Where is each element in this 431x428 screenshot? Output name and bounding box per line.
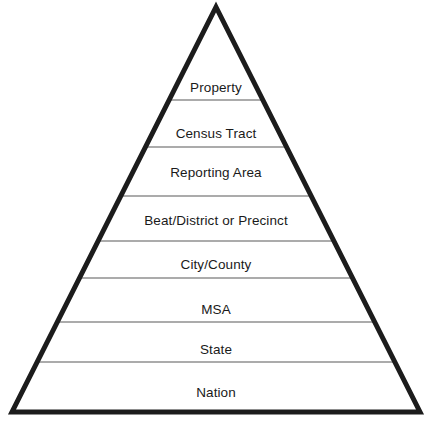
tier-label: Reporting Area — [170, 165, 262, 180]
tier-label: State — [200, 342, 232, 357]
pyramid-svg-canvas: PropertyCensus TractReporting AreaBeat/D… — [0, 0, 431, 428]
pyramid-diagram: PropertyCensus TractReporting AreaBeat/D… — [0, 0, 431, 428]
tier-label: Property — [190, 80, 242, 95]
tier-label: Nation — [196, 385, 236, 400]
tier-label: City/County — [181, 257, 252, 272]
tier-label: Census Tract — [176, 126, 257, 141]
tier-label: Beat/District or Precinct — [144, 213, 288, 228]
tier-label: MSA — [201, 302, 231, 317]
